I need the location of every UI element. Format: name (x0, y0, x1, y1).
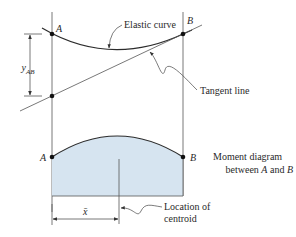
centroid-label-line1: Location of (164, 201, 211, 212)
elastic-curve-label: Elastic curve (124, 19, 176, 30)
point-b-upper (181, 32, 186, 37)
elastic-curve (42, 28, 192, 50)
centroid-leader (121, 205, 162, 214)
xbar-label: x̄ (82, 206, 88, 217)
moment-diagram-caption-line1: Moment diagram (213, 151, 282, 162)
tangent-line-leader (150, 52, 197, 90)
point-a-upper (50, 32, 55, 37)
centroid-label-line2: centroid (164, 213, 197, 224)
yab-label: yAB (9, 62, 42, 76)
elastic-curve-leader (109, 25, 122, 48)
point-a-lower (50, 155, 55, 160)
moment-diagram-area (52, 136, 183, 196)
tangent-line-label: Tangent line (200, 85, 250, 96)
moment-diagram-caption-line2: between A and B (213, 164, 296, 175)
point-a-upper-label: A (55, 23, 63, 34)
point-a-lower-label: A (39, 152, 47, 163)
point-b-lower (181, 155, 186, 160)
point-b-upper-label: B (187, 15, 193, 26)
deflection-moment-area-diagram: yAB A B Elastic curve Tangent line A B x… (0, 0, 296, 237)
point-b-lower-label: B (190, 152, 196, 163)
tangent-intersection-point (50, 94, 55, 99)
